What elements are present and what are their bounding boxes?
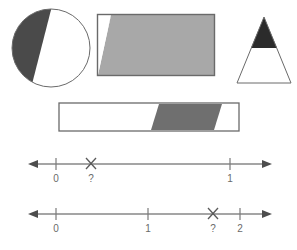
numline1-left-arrowhead [28,160,38,168]
rectangle-shaded-region [98,15,214,75]
numline2-unknown-label: ? [210,223,216,234]
triangle-shaded-top [251,17,277,48]
numline1-unknown-label: ? [88,173,94,184]
numline1-tick-label-0: 0 [53,173,59,184]
numline2-right-arrowhead [262,210,272,218]
numline1-right-arrowhead [262,160,272,168]
number-line-zero-to-two: 0 1 2 ? [0,200,297,250]
shapes-row [0,0,297,95]
number-line-zero-to-one: 0 1 ? [0,150,297,202]
bar-shaded-band [151,104,222,130]
numline2-tick-label-2: 2 [237,223,243,234]
shaded-circle [10,6,94,92]
shaded-bar [58,98,240,138]
numline2-left-arrowhead [28,210,38,218]
numline2-tick-label-1: 1 [145,223,151,234]
shaded-rectangle [97,14,215,76]
numline2-tick-label-0: 0 [53,223,59,234]
worksheet-canvas: 0 1 ? 0 1 2 ? [0,0,297,250]
shaded-triangle [236,14,294,86]
numline1-tick-label-1: 1 [227,173,233,184]
